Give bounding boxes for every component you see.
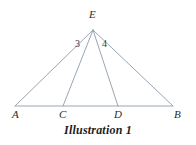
figure-caption: Illustration 1: [0, 124, 196, 136]
angle-label-4: 4: [102, 39, 107, 49]
vertex-label-B: B: [174, 109, 181, 120]
vertex-label-C: C: [59, 109, 66, 120]
vertex-label-D: D: [114, 109, 122, 120]
illustration-figure: E 3 4 A C D B Illustration 1: [0, 0, 196, 145]
segment-AE: [15, 30, 93, 106]
vertex-label-A: A: [12, 109, 19, 120]
vertex-label-E: E: [89, 9, 96, 20]
angle-label-3: 3: [75, 39, 80, 49]
